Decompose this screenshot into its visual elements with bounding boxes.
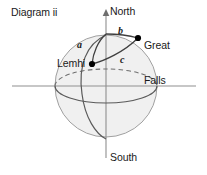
point-marker-great-falls — [135, 35, 141, 41]
great-falls-label: Great Falls — [144, 16, 170, 110]
north-label: North — [110, 6, 135, 18]
diagram-title: Diagram ii — [11, 7, 57, 19]
diagram-canvas — [0, 0, 207, 175]
great-falls-label-line1: Great — [144, 40, 170, 52]
point-marker-lemhi — [89, 61, 95, 67]
arc-c-label: c — [120, 54, 124, 65]
lemhi-label: Lemhi — [57, 58, 85, 70]
north-arrow-icon — [103, 9, 110, 16]
arc-a-label: a — [77, 39, 82, 50]
diagram-figure: Diagram ii North South Great Falls Lemhi… — [0, 0, 207, 175]
south-label: South — [110, 152, 137, 164]
great-falls-label-line2: Falls — [144, 75, 170, 87]
arc-b-label: b — [118, 25, 123, 36]
